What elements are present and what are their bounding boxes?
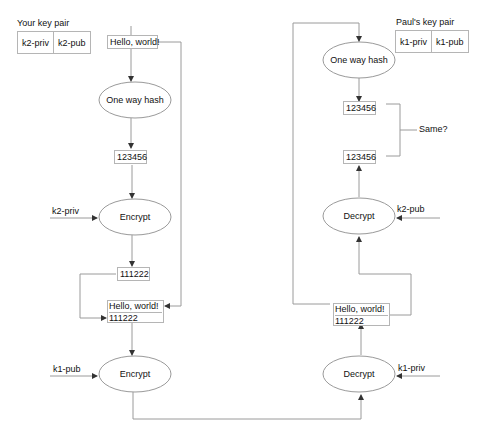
sender-private-key: k2-priv <box>18 32 53 53</box>
sender-bundle-signature: 111222 <box>109 312 162 324</box>
computed-hash-box: 123456 <box>343 101 376 115</box>
sender-bundle-box: Hello, world! 111222 <box>107 300 164 323</box>
receiver-private-key: k1-priv <box>396 31 431 52</box>
sender-keypair: k2-priv k2-pub <box>17 31 91 54</box>
sender-public-key: k2-pub <box>53 32 90 53</box>
receiver-bundle-message: Hello, world! <box>335 304 388 315</box>
decrypt-key-label: k1-priv <box>398 363 425 374</box>
receiver-hash-label: One way hash <box>323 55 395 66</box>
signature-box: 111222 <box>117 267 150 281</box>
verify-step-label: Decrypt <box>323 211 395 222</box>
verify-key-label: k2-pub <box>397 204 425 215</box>
sender-hash-value-box: 123456 <box>114 150 147 164</box>
receiver-public-key: k1-pub <box>431 31 468 52</box>
sender-message-box: Hello, world! <box>107 35 158 49</box>
receiver-bundle-box: Hello, world! 111222 <box>333 303 390 326</box>
receiver-bundle-signature: 111222 <box>335 315 388 327</box>
sender-bundle-message: Hello, world! <box>109 301 162 312</box>
sign-step-label: Encrypt <box>99 212 171 223</box>
receiver-keypair: k1-priv k1-pub <box>395 30 469 53</box>
receiver-keypair-title: Paul's key pair <box>396 17 454 28</box>
encrypt-key-label: k1-pub <box>53 364 81 375</box>
decrypted-hash-box: 123456 <box>343 150 376 164</box>
encrypt-step-label: Encrypt <box>99 369 171 380</box>
compare-label: Same? <box>419 124 448 135</box>
sender-hash-label: One way hash <box>99 95 171 106</box>
sender-keypair-title: Your key pair <box>17 18 69 29</box>
sign-key-label: k2-priv <box>52 206 79 217</box>
decrypt-step-label: Decrypt <box>323 369 395 380</box>
